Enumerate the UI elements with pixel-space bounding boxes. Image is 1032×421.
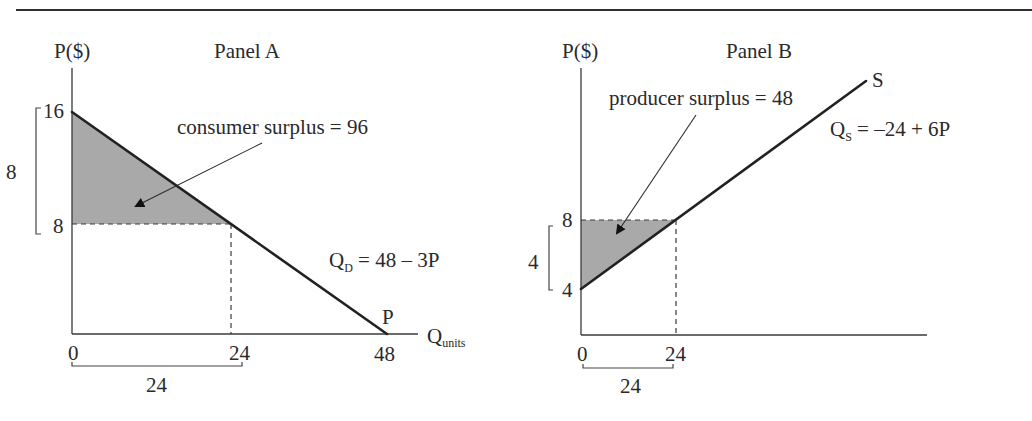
panel-b-y-axis-label: P($) [562, 39, 598, 63]
panel-a: P($) Panel A consumer surplus = 96 16 8 … [6, 39, 466, 397]
panel-a-height-bracket-label: 8 [6, 160, 17, 184]
panel-a-height-bracket [36, 108, 41, 234]
panel-b-height-bracket [549, 226, 553, 290]
panel-b-xtick-24: 24 [665, 342, 687, 366]
panel-b-title: Panel B [726, 39, 792, 63]
supply-equation: QS = –24 + 6P [830, 117, 950, 144]
producer-surplus-annotation: producer surplus = 48 [609, 86, 793, 110]
panel-b-ytick-8: 8 [562, 208, 573, 232]
panel-a-xtick-48: 48 [374, 342, 395, 366]
panel-a-x-axis-label: Qunits [427, 324, 466, 350]
panel-a-title: Panel A [214, 39, 281, 63]
consumer-surplus-annotation: consumer surplus = 96 [177, 115, 368, 139]
supply-curve-label: S [872, 68, 884, 92]
panel-a-xtick-24: 24 [229, 341, 251, 365]
panel-b-height-bracket-label: 4 [528, 250, 539, 274]
panel-b-base-bracket [583, 364, 673, 368]
demand-equation: QD = 48 – 3P [329, 248, 439, 275]
panel-b-xtick-0: 0 [577, 342, 588, 366]
panel-b: P($) Panel B S producer surplus = 48 QS … [528, 39, 950, 398]
demand-curve-label: P [382, 305, 394, 329]
panel-a-ytick-16: 16 [43, 99, 64, 123]
panel-b-ytick-4: 4 [562, 278, 573, 302]
panel-a-base-bracket-label: 24 [146, 373, 168, 397]
surplus-figure: P($) Panel A consumer surplus = 96 16 8 … [0, 0, 1032, 421]
panel-a-xtick-0: 0 [68, 341, 79, 365]
supply-curve [581, 81, 866, 289]
panel-a-ytick-8: 8 [53, 214, 64, 238]
panel-a-base-bracket [72, 362, 242, 366]
panel-b-base-bracket-label: 24 [620, 374, 642, 398]
panel-a-y-axis-label: P($) [54, 39, 90, 63]
